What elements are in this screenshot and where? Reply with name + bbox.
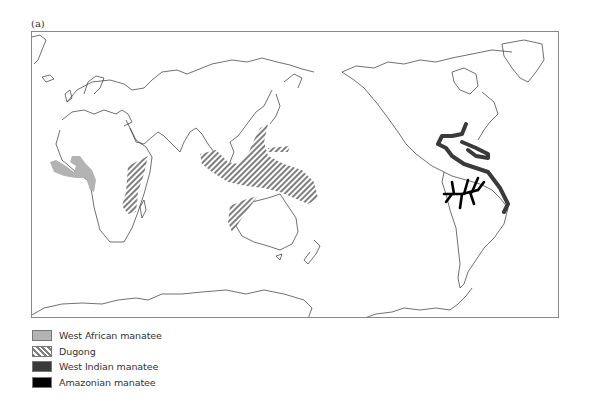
legend-label: West Indian manatee — [59, 361, 158, 372]
west-african-manatee-range — [50, 156, 96, 192]
dugong-swatch — [32, 346, 52, 357]
west-african-swatch — [32, 330, 52, 341]
map-legend: West African manatee Dugong West Indian … — [32, 328, 162, 390]
amazonian-swatch — [32, 377, 52, 388]
legend-label: West African manatee — [59, 330, 162, 341]
dugong-range — [122, 124, 318, 232]
world-map — [31, 31, 559, 318]
west-indian-swatch — [32, 361, 52, 372]
legend-label: Dugong — [59, 346, 96, 357]
legend-item-west-african-manatee: West African manatee — [32, 328, 162, 344]
panel-label: (a) — [31, 18, 45, 29]
legend-item-west-indian-manatee: West Indian manatee — [32, 359, 162, 375]
map-canvas — [32, 32, 559, 318]
amazonian-manatee-range — [444, 178, 484, 208]
legend-label: Amazonian manatee — [59, 377, 156, 388]
legend-item-amazonian-manatee: Amazonian manatee — [32, 375, 162, 391]
legend-item-dugong: Dugong — [32, 344, 162, 360]
